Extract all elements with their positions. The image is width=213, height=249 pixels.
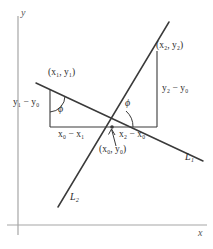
- x-axis-label: x: [198, 228, 202, 238]
- figure-canvas: [0, 0, 213, 249]
- p0-arrow-head: [109, 129, 116, 135]
- point-label-p1: (x₁, y₁): [48, 68, 75, 78]
- segment-label-y2-minus-y0: y₂ − y₀: [162, 84, 188, 94]
- angle-arc-right: [126, 111, 133, 127]
- line-label-l2: L₂: [70, 192, 79, 202]
- angle-label-phi-left: ϕ: [58, 104, 63, 114]
- angle-label-phi-right: ϕ: [125, 98, 130, 108]
- geometry-figure: y x (x₁, y₁) (x₂, y₂) (x₀, y₀) y₁ − y₀ y…: [0, 0, 213, 249]
- line-label-l1: L₁: [185, 152, 194, 162]
- point-label-p2: (x₂, y₂): [156, 41, 183, 51]
- right-triangle-legs: [112, 51, 157, 127]
- line-l2: [58, 22, 169, 207]
- segment-label-x0-minus-x1: x₀ − x₁: [58, 130, 84, 140]
- y-axis-label: y: [21, 8, 25, 18]
- point-label-p0: (x₀, y₀): [99, 145, 126, 155]
- segment-label-y1-minus-y0: y₁ − y₀: [13, 98, 39, 108]
- segment-label-x2-minus-x0: x₂ − x₀: [119, 130, 145, 140]
- intersection-point: [110, 125, 114, 129]
